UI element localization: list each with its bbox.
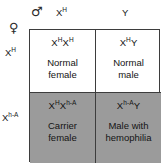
punnett-square-diagram: ♂ ♀ XH Y XH Xh-A XHXH Normalfemale XHY N… [0, 0, 168, 168]
genotype-top-left: XHXH [51, 37, 73, 48]
phenotype-top-left-line-0: Normal [47, 57, 78, 69]
phenotype-bottom-left: Carrierfemale [48, 120, 77, 143]
punnett-grid: XHXH Normalfemale XHY Normalmale XHXh-A … [29, 29, 160, 162]
column-header-allele-1: Y [122, 8, 128, 18]
row-header-allele-0-superscript: H [11, 46, 16, 53]
genotype-bottom-left-b-superscript: h-A [66, 99, 76, 106]
phenotype-bottom-right-line-1: hemophilia [106, 132, 152, 144]
phenotype-bottom-left-line-0: Carrier [48, 120, 77, 132]
genotype-top-right: XHY [120, 37, 138, 48]
row-header-allele-1: Xh-A [2, 113, 18, 123]
phenotype-bottom-right: Male withhemophilia [106, 120, 152, 143]
punnett-cell-top-left: XHXH Normalfemale [30, 30, 96, 93]
punnett-cell-bottom-right: Xh-AY Male withhemophilia [96, 93, 161, 163]
row-header-allele-1-superscript: h-A [8, 111, 18, 118]
phenotype-top-right: Normalmale [113, 57, 144, 80]
column-header-allele-0-superscript: H [62, 6, 67, 13]
phenotype-bottom-left-line-1: female [48, 132, 77, 144]
female-sex-symbol-icon: ♀ [9, 21, 19, 34]
phenotype-top-right-line-1: male [113, 69, 144, 81]
phenotype-top-left: Normalfemale [47, 57, 78, 80]
column-header-allele-0: XH [56, 8, 67, 18]
phenotype-top-left-line-1: female [47, 69, 78, 81]
genotype-top-right-b-base: Y [131, 37, 137, 48]
genotype-bottom-right: Xh-AY [117, 100, 140, 111]
phenotype-top-right-line-0: Normal [113, 57, 144, 69]
genotype-bottom-left: XHXh-A [48, 100, 76, 111]
phenotype-bottom-right-line-0: Male with [106, 120, 152, 132]
genotype-bottom-right-a-superscript: h-A [123, 99, 133, 106]
row-header-allele-0: XH [5, 48, 16, 58]
genotype-top-left-b-superscript: H [69, 36, 74, 43]
column-header-allele-1-base: Y [122, 7, 128, 18]
punnett-cell-bottom-left: XHXh-A Carrierfemale [30, 93, 96, 163]
punnett-cell-top-right: XHY Normalmale [96, 30, 161, 93]
genotype-bottom-right-b-base: Y [134, 100, 140, 111]
male-sex-symbol-icon: ♂ [31, 5, 43, 18]
